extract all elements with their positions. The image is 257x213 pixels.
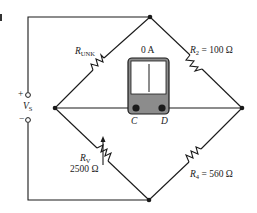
rv-variable-arrow-head: [101, 136, 106, 142]
r4-equals: =: [201, 169, 206, 179]
wire-r4-arm-b: [201, 108, 242, 149]
source-label: VS: [23, 102, 32, 113]
meter-terminal-d: [158, 104, 165, 111]
r2-label: R2 = 100 Ω: [190, 46, 233, 57]
node-right: [240, 106, 245, 111]
rv-value: 2500 Ω: [70, 165, 98, 175]
meter-terminal-c: [132, 104, 139, 111]
rv-label: RV: [80, 154, 91, 165]
rv-subscript: V: [86, 157, 91, 164]
r2-equals: =: [201, 45, 206, 55]
source-plus-sign: +: [18, 90, 23, 100]
node-bottom: [147, 198, 152, 203]
wire-r2-arm-a: [150, 17, 190, 55]
wire-r2-arm-b: [202, 69, 242, 108]
source-minus-sign: −: [19, 115, 24, 125]
r2-value: 100 Ω: [209, 45, 233, 55]
r-unk-label: RUNK: [75, 47, 95, 58]
source-terminal-minus: [26, 118, 31, 123]
ammeter: [128, 58, 169, 114]
meter-reading: 0 A: [141, 46, 154, 56]
wire-r4-arm-a: [149, 162, 189, 200]
resistor-r2-zigzag: [186, 55, 202, 71]
wire-rv-arm-a: [55, 108, 97, 148]
r4-value: 560 Ω: [209, 169, 233, 179]
meter-terminal-d-label: D: [161, 117, 168, 127]
r-unk-subscript: UNK: [81, 50, 95, 57]
r2-subscript: 2: [196, 49, 199, 56]
r4-label: R4 = 560 Ω: [190, 170, 233, 181]
wheatstone-bridge-diagram: [0, 0, 257, 213]
wire-r-unk-arm-a: [55, 70, 93, 108]
wire-rv-arm-b: [108, 161, 149, 200]
resistor-rv-zigzag: [97, 145, 111, 161]
r4-subscript: 4: [196, 173, 199, 180]
node-left: [53, 106, 58, 111]
source-subscript: S: [29, 105, 33, 112]
node-top: [148, 15, 153, 20]
source-terminal-plus: [26, 93, 31, 98]
meter-terminal-c-label: C: [131, 117, 137, 127]
resistor-r4-zigzag: [186, 147, 201, 162]
